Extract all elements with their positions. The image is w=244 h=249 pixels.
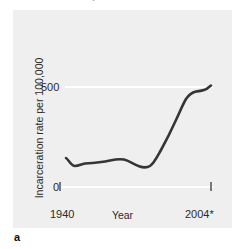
figure-panel: Incarceration rate per 100,000 500 0 194… bbox=[13, 10, 232, 228]
clipped-caption-text: Incarceration rates by sex and race bbox=[8, 0, 236, 2]
incarceration-rate-line bbox=[66, 86, 211, 168]
panel-letter-a: a bbox=[14, 231, 20, 243]
x-axis-title: Year bbox=[13, 209, 232, 221]
plot-area bbox=[13, 10, 232, 228]
